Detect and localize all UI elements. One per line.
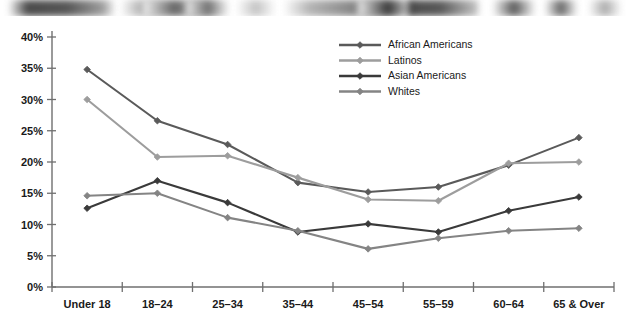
x-axis-tick-label: 35–44 — [283, 298, 314, 310]
legend-label: African Americans — [388, 38, 473, 50]
data-point-marker — [435, 184, 442, 191]
y-axis: 0%5%10%15%20%25%30%35%40% — [21, 31, 56, 293]
legend-marker-icon — [357, 42, 364, 49]
legend-item-african-americans[interactable]: African Americans — [339, 38, 473, 50]
data-point-marker — [576, 159, 583, 166]
y-axis-tick-label: 25% — [21, 125, 43, 137]
y-axis-tick-label: 0% — [27, 281, 43, 293]
legend-label: Whites — [388, 85, 420, 97]
chart-legend: African AmericansLatinosAsian AmericansW… — [339, 38, 473, 97]
data-point-marker — [154, 177, 161, 184]
x-axis-tick-label: 55–59 — [423, 298, 454, 310]
legend-marker-icon — [357, 73, 364, 80]
data-point-marker — [576, 225, 583, 232]
series-latinos — [84, 96, 582, 204]
data-point-marker — [365, 196, 372, 203]
legend-label: Latinos — [388, 54, 422, 66]
x-axis-tick-label: 18–24 — [142, 298, 173, 310]
y-axis-tick-label: 35% — [21, 62, 43, 74]
x-axis-tick-label: 45–54 — [353, 298, 384, 310]
y-axis-tick-label: 20% — [21, 156, 43, 168]
x-axis-tick-label: 60–64 — [493, 298, 524, 310]
data-point-marker — [435, 235, 442, 242]
x-axis-tick-label: 65 & Over — [553, 298, 605, 310]
legend-item-latinos[interactable]: Latinos — [339, 54, 422, 66]
data-point-marker — [365, 246, 372, 253]
y-axis-tick-label: 40% — [21, 31, 43, 43]
data-point-marker — [435, 229, 442, 236]
data-point-marker — [365, 221, 372, 228]
legend-item-asian-americans[interactable]: Asian Americans — [339, 69, 466, 81]
data-point-marker — [84, 192, 91, 199]
series-whites — [84, 190, 582, 252]
legend-marker-icon — [357, 88, 364, 95]
data-point-marker — [154, 190, 161, 197]
line-chart-figure: 0%5%10%15%20%25%30%35%40% Under 1818–242… — [0, 0, 627, 313]
y-axis-tick-label: 10% — [21, 219, 43, 231]
legend-item-whites[interactable]: Whites — [339, 85, 420, 97]
y-axis-tick-label: 15% — [21, 187, 43, 199]
data-point-marker — [224, 214, 231, 221]
y-axis-tick-label: 30% — [21, 94, 43, 106]
series-asian-americans — [84, 177, 582, 235]
x-axis-tick-label: 25–34 — [212, 298, 243, 310]
series-african-americans — [84, 66, 582, 195]
data-point-marker — [505, 227, 512, 234]
data-point-marker — [505, 207, 512, 214]
legend-marker-icon — [357, 57, 364, 64]
data-point-marker — [576, 134, 583, 141]
x-axis-tick-label: Under 18 — [64, 298, 111, 310]
data-point-marker — [576, 194, 583, 201]
x-axis: Under 1818–2425–3435–4445–5455–5960–6465… — [52, 282, 614, 310]
series-container — [84, 66, 582, 252]
data-point-marker — [295, 174, 302, 181]
y-axis-tick-label: 5% — [27, 250, 43, 262]
data-point-marker — [224, 199, 231, 206]
chart-plot-area: 0%5%10%15%20%25%30%35%40% Under 1818–242… — [0, 0, 627, 313]
data-point-marker — [365, 189, 372, 196]
legend-label: Asian Americans — [388, 69, 466, 81]
data-point-marker — [224, 152, 231, 159]
data-point-marker — [84, 205, 91, 212]
